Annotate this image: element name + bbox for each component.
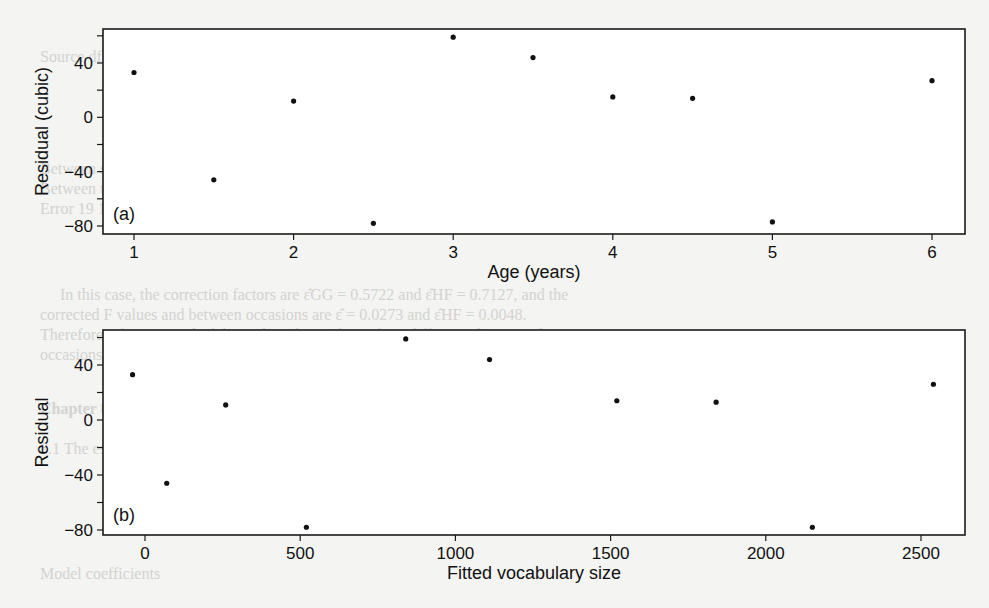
x-tick-label: 1000 xyxy=(436,544,474,563)
data-point xyxy=(131,70,136,75)
data-point xyxy=(530,55,535,60)
data-point xyxy=(130,372,135,377)
y-tick-label: 40 xyxy=(74,356,93,375)
data-point xyxy=(403,336,408,341)
panel-label: (a) xyxy=(113,204,135,224)
data-point xyxy=(487,357,492,362)
panel-b-residual-vs-fitted: 400−40−8005001000150020002500Fitted voca… xyxy=(32,330,965,583)
x-tick-label: 1500 xyxy=(592,544,630,563)
x-tick-label: 6 xyxy=(927,243,936,262)
y-tick-label: −80 xyxy=(64,521,93,540)
residual-plots-figure: 400−40−80123456Age (years)Residual (cubi… xyxy=(0,0,989,608)
x-tick-label: 4 xyxy=(608,243,617,262)
y-tick-label: 40 xyxy=(74,54,93,73)
data-point xyxy=(931,382,936,387)
y-tick-label: −40 xyxy=(64,466,93,485)
panel-label: (b) xyxy=(113,505,135,525)
y-tick-label: 0 xyxy=(84,108,93,127)
data-point xyxy=(810,525,815,530)
data-point xyxy=(371,221,376,226)
data-point xyxy=(770,219,775,224)
data-point xyxy=(451,35,456,40)
y-tick-label: 0 xyxy=(84,411,93,430)
data-point xyxy=(211,177,216,182)
data-point xyxy=(223,402,228,407)
y-tick-label: −80 xyxy=(64,217,93,236)
data-point xyxy=(304,525,309,530)
data-point xyxy=(714,400,719,405)
x-tick-label: 2000 xyxy=(747,544,785,563)
x-tick-label: 1 xyxy=(129,243,138,262)
x-tick-label: 5 xyxy=(768,243,777,262)
plot-frame xyxy=(103,330,965,535)
panel-a-residual-vs-age: 400−40−80123456Age (years)Residual (cubi… xyxy=(32,29,965,282)
y-tick-label: −40 xyxy=(64,163,93,182)
x-tick-label: 2 xyxy=(289,243,298,262)
data-point xyxy=(614,398,619,403)
data-point xyxy=(610,94,615,99)
data-point xyxy=(690,96,695,101)
y-axis-label: Residual (cubic) xyxy=(32,67,52,196)
data-point xyxy=(291,98,296,103)
x-axis-label: Fitted vocabulary size xyxy=(447,563,621,583)
x-tick-label: 500 xyxy=(286,544,314,563)
x-tick-label: 3 xyxy=(448,243,457,262)
x-axis-label: Age (years) xyxy=(487,262,580,282)
x-tick-label: 2500 xyxy=(902,544,940,563)
y-axis-label: Residual xyxy=(32,397,52,467)
x-tick-label: 0 xyxy=(140,544,149,563)
data-point xyxy=(929,78,934,83)
data-point xyxy=(164,481,169,486)
